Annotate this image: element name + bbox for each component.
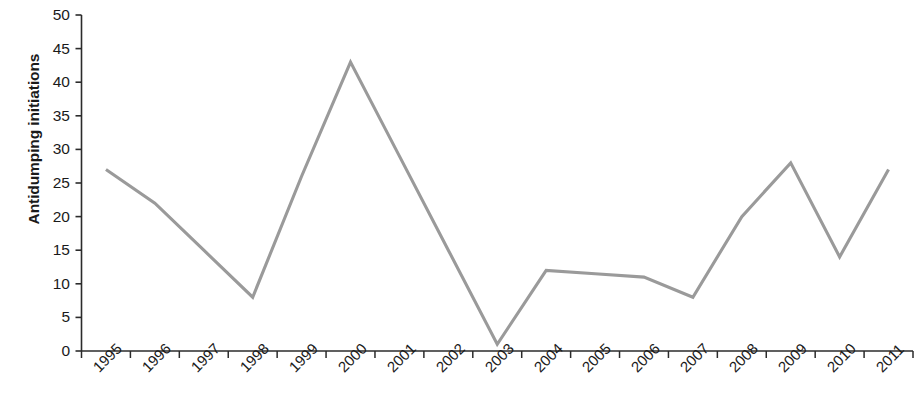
line-chart: Antidumping initiations 0510152025303540… bbox=[0, 0, 917, 410]
axes bbox=[82, 15, 914, 351]
y-axis-tick-marks bbox=[76, 15, 82, 351]
data-series-line bbox=[106, 62, 889, 344]
x-axis-tick-marks bbox=[82, 351, 914, 358]
plot-area bbox=[0, 0, 917, 410]
